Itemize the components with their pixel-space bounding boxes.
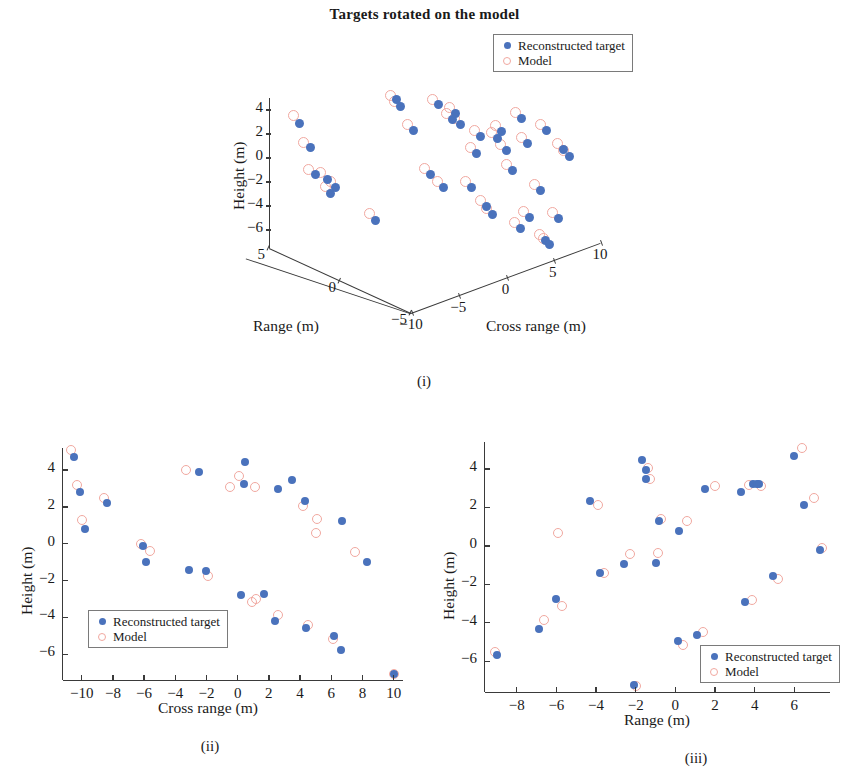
reconstructed-target-point <box>240 480 248 488</box>
axis-title-cross-range-i: Cross range (m) <box>486 317 586 335</box>
model-point <box>645 474 655 484</box>
reconstructed-target-point <box>674 637 682 645</box>
x-tick-label: 4 <box>733 697 777 714</box>
reconstructed-target-point <box>565 152 574 161</box>
reconstructed-target-point <box>523 139 532 148</box>
model-point <box>501 159 512 170</box>
model-point <box>427 94 438 105</box>
open-circle-icon <box>94 633 110 641</box>
z-tick <box>266 109 271 110</box>
x-tick <box>754 687 755 693</box>
model-point <box>710 481 720 491</box>
range-tick-label: 5 <box>225 246 265 263</box>
reconstructed-target-point <box>516 224 525 233</box>
model-point <box>364 208 375 219</box>
reconstructed-target-point <box>737 488 745 496</box>
x-tick <box>556 687 557 693</box>
y-tick <box>62 543 68 544</box>
reconstructed-target-point <box>630 681 638 689</box>
reconstructed-target-point <box>185 566 193 574</box>
x-tick-label: 6 <box>772 697 816 714</box>
model-point <box>465 142 476 153</box>
x-tick-label: −8 <box>495 697 539 714</box>
chart-panel-ii: −6−4−2024−10−8−6−4−20246810 Height (m) C… <box>0 430 424 773</box>
reconstructed-target-point <box>586 497 594 505</box>
reconstructed-target-point <box>392 95 401 104</box>
model-point <box>682 516 692 526</box>
y-tick <box>62 469 68 470</box>
model-point <box>72 480 82 490</box>
range-tick-label: 0 <box>296 279 336 296</box>
model-point <box>490 120 501 131</box>
model-point <box>557 601 567 611</box>
model-point <box>756 481 766 491</box>
reconstructed-target-point <box>542 126 551 135</box>
reconstructed-target-point <box>456 120 465 129</box>
reconstructed-target-point <box>306 143 315 152</box>
reconstructed-target-point <box>753 480 761 488</box>
reconstructed-target-point <box>755 480 763 488</box>
x-tick-label: −6 <box>534 697 578 714</box>
legend-panel-iii: Reconstructed target Model <box>700 645 840 683</box>
x-tick <box>206 675 207 681</box>
reconstructed-target-point <box>541 236 550 245</box>
model-point <box>99 493 109 503</box>
z-tick <box>266 157 271 158</box>
y-tick <box>484 507 490 508</box>
model-point <box>449 113 460 124</box>
model-point <box>77 515 87 525</box>
model-point <box>656 514 666 524</box>
z-tick <box>266 133 271 134</box>
reconstructed-target-point <box>525 213 534 222</box>
x-tick <box>268 675 269 681</box>
model-point <box>234 471 244 481</box>
x-axis-spine <box>63 680 403 681</box>
model-point <box>534 229 545 240</box>
y-tick <box>62 617 68 618</box>
reconstructed-target-point <box>288 476 296 484</box>
reconstructed-target-point <box>620 560 628 568</box>
reconstructed-target-point <box>535 625 543 633</box>
x-tick <box>675 687 676 693</box>
cross-range-tick-label: −5 <box>440 299 476 316</box>
y-tick <box>484 468 490 469</box>
legend-label-model: Model <box>722 664 759 679</box>
model-point <box>817 543 827 553</box>
reconstructed-target-point <box>448 115 457 124</box>
z-axis-spine <box>269 98 270 248</box>
model-point <box>518 206 529 217</box>
cross-range-tick-label: 0 <box>488 281 524 298</box>
reconstructed-target-point <box>142 558 150 566</box>
z-tick-label: 4 <box>225 99 263 116</box>
reconstructed-target-point <box>675 527 683 535</box>
y-axis-spine <box>62 448 63 680</box>
reconstructed-target-point <box>493 651 501 659</box>
reconstructed-target-point <box>790 452 798 460</box>
model-point <box>402 119 413 130</box>
model-point <box>273 610 283 620</box>
model-point <box>136 539 146 549</box>
axis-title-height-iii: Height (m) <box>440 552 458 620</box>
reconstructed-target-point <box>326 189 335 198</box>
model-point <box>311 528 321 538</box>
model-point <box>288 110 299 121</box>
model-point <box>653 548 663 558</box>
reconstructed-target-point <box>260 590 268 598</box>
reconstructed-target-point <box>439 183 448 192</box>
reconstructed-target-point <box>295 119 304 128</box>
legend-label-reconstructed: Reconstructed target <box>722 649 832 664</box>
x-tick <box>595 687 596 693</box>
reconstructed-target-point <box>103 499 111 507</box>
model-point <box>747 595 757 605</box>
reconstructed-target-point <box>642 475 650 483</box>
model-point <box>529 179 540 190</box>
model-point <box>298 501 308 511</box>
model-point <box>625 549 635 559</box>
reconstructed-target-point <box>330 632 338 640</box>
legend-row-reconstructed: Reconstructed target <box>706 649 832 664</box>
reconstructed-target-point <box>241 458 249 466</box>
x-tick <box>237 675 238 681</box>
reconstructed-target-point <box>545 240 554 249</box>
reconstructed-target-point <box>472 149 481 158</box>
z-tick <box>266 181 271 182</box>
